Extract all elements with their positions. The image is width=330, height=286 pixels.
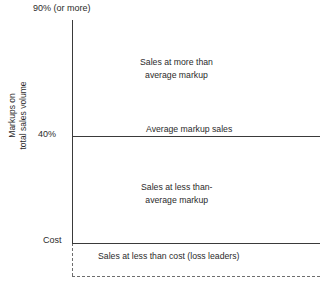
cost-rule — [72, 243, 320, 244]
markup-band-diagram: 90% (or more) 40% Cost Markups on total … — [0, 0, 330, 286]
y-tick-label-top: 90% (or more) — [33, 4, 91, 14]
band-label-above-line1: Sales at more than — [140, 56, 213, 69]
y-axis-line-dashed-extension — [72, 243, 73, 276]
band-label-below-average-markup: Sales at less than- average markup — [141, 181, 212, 206]
loss-leader-boundary-dashed-rule — [72, 276, 320, 277]
y-axis-line — [72, 20, 73, 243]
y-axis-title: Markups on total sales volume — [7, 55, 30, 175]
band-label-below-line1: Sales at less than- — [141, 181, 212, 194]
band-label-loss-leaders: Sales at less than cost (loss leaders) — [98, 250, 239, 263]
y-tick-label-cost: Cost — [43, 236, 62, 246]
average-markup-rule — [72, 136, 320, 137]
y-axis-title-line2: total sales volume — [18, 55, 29, 175]
band-label-loss-line1: Sales at less than cost (loss leaders) — [98, 250, 239, 263]
band-label-above-line2: average markup — [140, 69, 213, 82]
band-label-average-line1: Average markup sales — [146, 123, 232, 136]
y-tick-label-mid: 40% — [38, 130, 56, 140]
band-label-above-average-markup: Sales at more than average markup — [140, 56, 213, 81]
band-label-below-line2: average markup — [141, 194, 212, 207]
band-label-average-markup: Average markup sales — [146, 123, 232, 136]
y-axis-title-line1: Markups on — [7, 55, 18, 175]
